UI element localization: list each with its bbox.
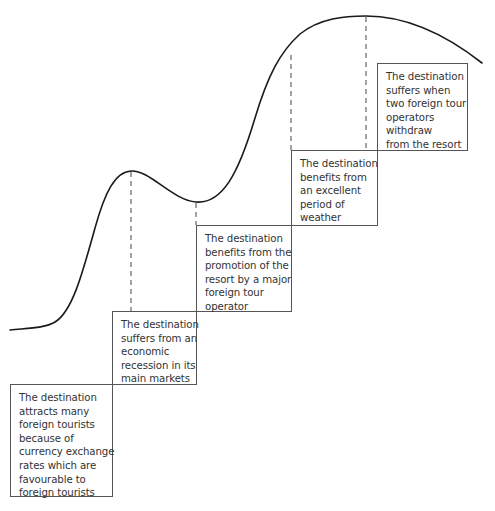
box-text-line: an excellent bbox=[300, 184, 373, 198]
event-box-promotion: The destination benefits from the promot… bbox=[196, 225, 292, 312]
box-text-line: currency exchange bbox=[19, 445, 108, 459]
box-text-line: foreign tour bbox=[205, 286, 287, 300]
box-text-line: The destination bbox=[205, 232, 287, 246]
event-box-weather: The destination benefits from an excelle… bbox=[291, 150, 378, 226]
box-text-line: attracts many bbox=[19, 405, 108, 419]
box-text-line: suffers when bbox=[386, 84, 463, 98]
box-text-line: The destination bbox=[121, 318, 192, 332]
box-text-line: period of bbox=[300, 198, 373, 212]
box-text-line: because of bbox=[19, 432, 108, 446]
box-text-line: withdraw bbox=[386, 124, 463, 138]
box-text-line: operator bbox=[205, 300, 287, 314]
box-text-line: economic bbox=[121, 345, 192, 359]
box-text-line: main markets bbox=[121, 372, 192, 386]
box-text-line: suffers from an bbox=[121, 332, 192, 346]
box-text-line: The destination bbox=[300, 157, 373, 171]
event-box-currency: The destination attracts many foreign to… bbox=[10, 384, 113, 497]
box-text-line: The destination bbox=[386, 70, 463, 84]
box-text-line: resort by a major bbox=[205, 273, 287, 287]
box-text-line: two foreign tour bbox=[386, 97, 463, 111]
life-cycle-diagram: The destination attracts many foreign to… bbox=[0, 0, 495, 511]
box-text-line: foreign tourists bbox=[19, 418, 108, 432]
box-text-line: from the resort bbox=[386, 138, 463, 152]
box-text-line: foreign tourists bbox=[19, 486, 108, 500]
box-text-line: benefits from bbox=[300, 171, 373, 185]
box-text-line: The destination bbox=[19, 391, 108, 405]
box-text-line: operators bbox=[386, 111, 463, 125]
box-text-line: weather bbox=[300, 211, 373, 225]
event-box-recession: The destination suffers from an economic… bbox=[112, 311, 197, 385]
box-text-line: favourable to bbox=[19, 473, 108, 487]
box-text-line: recession in its bbox=[121, 359, 192, 373]
event-box-withdraw: The destination suffers when two foreign… bbox=[377, 63, 468, 151]
box-text-line: promotion of the bbox=[205, 259, 287, 273]
box-text-line: benefits from the bbox=[205, 246, 287, 260]
box-text-line: rates which are bbox=[19, 459, 108, 473]
